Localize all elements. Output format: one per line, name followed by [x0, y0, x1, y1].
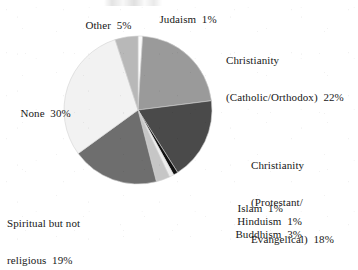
- slice-label-other: Other 5%: [74, 7, 132, 44]
- slice-label-buddhism: Buddhism 3%: [186, 216, 302, 253]
- slice-label-judaism: Judaism 1%: [148, 1, 217, 38]
- slice-label-catholic-line1: Christianity: [226, 54, 344, 66]
- slice-label-spiritual-line2: religious 19%: [7, 254, 80, 266]
- slice-label-protestant-line1: Christianity: [251, 159, 334, 171]
- slice-label-christianity-catholic-orthodox: Christianity (Catholic/Orthodox) 22%: [226, 29, 344, 128]
- slice-label-none-text: None 30%: [20, 107, 70, 119]
- pie-slice-christianity-catholic-orthodox: [138, 36, 211, 110]
- slice-label-other-text: Other 5%: [85, 19, 131, 31]
- slice-label-spiritual-line1: Spiritual but not: [7, 217, 80, 229]
- slice-label-buddhism-text: Buddhism 3%: [235, 228, 302, 240]
- pie-slice-group: [64, 36, 212, 184]
- slice-label-judaism-text: Judaism 1%: [159, 13, 216, 25]
- slice-label-spiritual-but-not-religious: Spiritual but not religious 19%: [7, 192, 80, 270]
- slice-label-catholic-line2: (Catholic/Orthodox) 22%: [226, 91, 344, 103]
- slice-label-none: None 30%: [9, 95, 71, 132]
